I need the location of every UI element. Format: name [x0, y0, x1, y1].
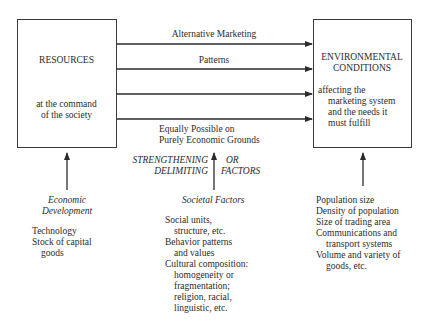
- env-desc-3: and the needs it: [328, 107, 387, 118]
- societal-item: linguistic, etc.: [174, 303, 228, 314]
- flow-label-alternative-marketing: Alternative Marketing: [116, 29, 312, 40]
- resources-title: RESOURCES: [18, 55, 115, 66]
- environmental-conditions-box: ENVIRONMENTAL CONDITIONS affecting the m…: [313, 19, 412, 148]
- environment-item: goods, etc.: [326, 261, 367, 272]
- env-title-1: ENVIRONMENTAL: [314, 52, 410, 63]
- factors-label: FACTORS: [221, 166, 260, 177]
- societal-item: Cultural composition:: [165, 259, 248, 270]
- societal-heading: Societal Factors: [182, 195, 245, 206]
- or-label: OR: [226, 155, 239, 166]
- economic-item: Stock of capital: [32, 237, 92, 248]
- env-desc-4: must fulfill: [328, 118, 371, 129]
- environment-item: Population size: [316, 195, 374, 206]
- societal-item: religion, racial,: [174, 292, 232, 303]
- resources-subtitle-1: at the command: [18, 99, 115, 110]
- resources-box: RESOURCES at the command of the society: [17, 19, 117, 148]
- environment-item: transport systems: [326, 239, 392, 250]
- resources-subtitle-2: of the society: [18, 110, 115, 121]
- env-desc-1: affecting the: [318, 85, 366, 96]
- economic-item: goods: [41, 248, 64, 259]
- societal-item: Behavior patterns: [165, 237, 232, 248]
- env-title-2: CONDITIONS: [314, 63, 410, 74]
- economic-heading-2: Development: [17, 206, 117, 217]
- flow-label-economic-grounds: Purely Economic Grounds: [159, 135, 260, 146]
- societal-item: Social units,: [165, 215, 212, 226]
- environment-item: Volume and variety of: [316, 250, 401, 261]
- societal-item: and values: [174, 248, 214, 259]
- societal-item: homogeneity or: [174, 270, 234, 281]
- flow-label-patterns: Patterns: [116, 55, 312, 66]
- economic-heading-1: Economic: [17, 195, 117, 206]
- societal-item: fragmentation;: [174, 281, 230, 292]
- env-desc-2: marketing system: [328, 96, 395, 107]
- strengthening-label: STRENGTHENING: [123, 155, 208, 166]
- societal-item: structure, etc.: [174, 226, 225, 237]
- delimiting-label: DELIMITING: [123, 166, 208, 177]
- economic-item: Technology: [32, 226, 77, 237]
- flow-label-equally-possible: Equally Possible on: [159, 124, 234, 135]
- environment-item: Communications and: [316, 228, 397, 239]
- environment-item: Size of trading area: [316, 217, 390, 228]
- environment-item: Density of population: [316, 206, 399, 217]
